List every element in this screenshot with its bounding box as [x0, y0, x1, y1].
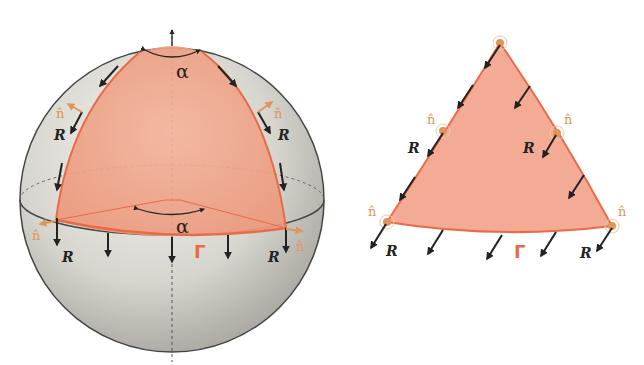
gamma-label: Γ [514, 241, 525, 262]
alpha-label-top: α [176, 60, 189, 82]
sphere-figure: α α n̂ n̂ n̂ n̂ R [20, 30, 324, 362]
flat-triangle-patch [387, 43, 612, 232]
r-label: R [385, 243, 398, 259]
n-hat-label: n̂ [32, 228, 41, 243]
r-label: R [53, 127, 66, 143]
n-hat-label: n̂ [296, 239, 305, 254]
diagram-canvas: α α n̂ n̂ n̂ n̂ R [0, 0, 644, 365]
r-label: R [267, 249, 280, 265]
alpha-label-bottom: α [176, 215, 189, 237]
r-label: R [522, 140, 535, 156]
n-hat-label: n̂ [56, 106, 65, 121]
n-hat-label: n̂ [274, 106, 283, 121]
r-label: R [61, 249, 74, 265]
r-label: R [277, 127, 290, 143]
n-hat-label: n̂ [564, 112, 573, 127]
r-label: R [407, 140, 420, 156]
gamma-label: Γ [194, 241, 205, 262]
n-hat-label: n̂ [368, 204, 377, 219]
n-hat-label: n̂ [618, 204, 627, 219]
flat-triangle-figure: n̂ n̂ n̂ n̂ R R R R Γ [368, 36, 627, 262]
r-label: R [579, 245, 592, 261]
n-hat-label: n̂ [427, 112, 436, 127]
